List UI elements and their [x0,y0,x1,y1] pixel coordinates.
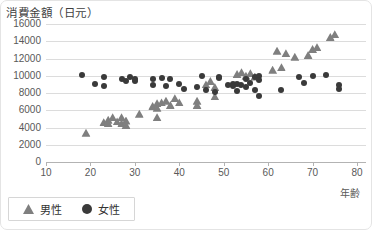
scatter-point-female [278,87,284,93]
x-axis-line [46,162,366,163]
x-axis-tick [46,162,47,166]
x-axis-tick-label: 30 [120,167,150,178]
scatter-point-female [203,87,209,93]
scatter-point-female [234,88,240,94]
legend-female-label: 女性 [98,201,120,217]
x-axis-tick [224,162,225,166]
y-axis-tick-label: 12000 [1,53,41,65]
y-axis-tick-label: 8000 [1,87,41,99]
scatter-point-female [247,80,253,86]
scatter-point-female [323,72,329,78]
scatter-point-male [206,77,215,85]
x-axis-title: 年齢 [331,185,369,200]
scatter-point-male [268,66,277,74]
x-axis-tick [90,162,91,166]
legend-item-female: 女性 [82,201,120,217]
male-triangle-icon [23,204,34,214]
scatter-point-female [199,73,205,79]
scatter-point-male [281,49,290,57]
y-axis-tick-label: 6000 [1,104,41,116]
x-axis-tick-label: 50 [209,167,239,178]
scatter-point-female [167,76,173,82]
scatter-point-male [273,47,282,55]
x-axis-tick-label: 10 [31,167,61,178]
legend-male-label: 男性 [40,201,62,217]
scatter-point-female [252,87,258,93]
female-circle-icon [82,204,92,214]
y-axis-tick-label: 10000 [1,70,41,82]
scatter-point-male [330,30,339,38]
scatter-point-female [132,76,138,82]
scatter-point-female [150,82,156,88]
scatter-point-female [79,72,85,78]
y-axis-tick-label: 16000 [1,18,41,30]
scatter-point-female [212,89,218,95]
legend: 男性 女性 [8,197,135,221]
x-axis-tick [357,162,358,166]
scatter-point-male [81,129,90,137]
x-axis-tick [179,162,180,166]
scatter-point-female [92,81,98,87]
x-axis-tick-label: 40 [164,167,194,178]
scatter-point-female [101,83,107,89]
scatter-point-female [159,75,165,81]
x-axis-tick-label: 80 [342,167,372,178]
x-axis-tick-label: 20 [75,167,105,178]
scatter-point-female [194,84,200,90]
x-axis-tick [135,162,136,166]
y-axis-tick-label: 2000 [1,139,41,151]
scatter-point-female [336,86,342,92]
scatter-point-female [216,75,222,81]
x-axis-tick [268,162,269,166]
scatter-point-female [163,83,169,89]
x-axis-tick-label: 70 [298,167,328,178]
x-axis-tick-label: 60 [253,167,283,178]
plot-points [46,24,357,162]
scatter-point-female [256,93,262,99]
scatter-point-male [290,53,299,61]
y-axis-tick-label: 4000 [1,122,41,134]
y-axis-tick-label: 14000 [1,35,41,47]
scatter-point-male [135,110,144,118]
x-axis-tick [313,162,314,166]
scatter-point-female [181,86,187,92]
scatter-point-female [301,80,307,86]
legend-item-male: 男性 [23,201,62,217]
scatter-chart: 消費金額（日元） 0200040006000800010000120001400… [0,0,372,230]
scatter-point-female [101,74,107,80]
scatter-point-male [193,101,202,109]
scatter-point-male [277,63,286,71]
scatter-point-male [313,43,322,51]
scatter-point-female [256,77,262,83]
scatter-point-male [153,113,162,121]
scatter-point-female [310,73,316,79]
